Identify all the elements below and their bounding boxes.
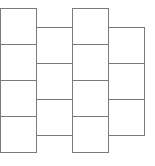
grid-cell	[36, 27, 73, 64]
grid-cell	[0, 116, 37, 153]
grid-cell	[72, 116, 109, 153]
grid-cell	[0, 8, 37, 45]
grid-cell	[72, 80, 109, 117]
staggered-grid-diagram	[0, 0, 155, 166]
grid-cell	[72, 44, 109, 81]
grid-cell	[108, 99, 145, 136]
grid-cell	[108, 63, 145, 100]
grid-cell	[72, 8, 109, 45]
grid-cell	[36, 99, 73, 136]
grid-cell	[0, 80, 37, 117]
grid-cell	[0, 44, 37, 81]
grid-cell	[108, 27, 145, 64]
grid-cell	[36, 63, 73, 100]
